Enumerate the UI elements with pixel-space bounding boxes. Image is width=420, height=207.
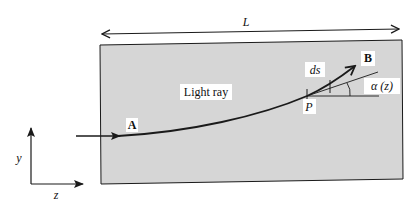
z-axis-label: z <box>53 188 59 202</box>
medium-box <box>100 40 403 184</box>
light-ray-diagram: L Light ray A B P ds α (z) y z <box>0 0 420 207</box>
segment-ds-label: ds <box>310 63 321 77</box>
angle-label: α (z) <box>371 79 393 93</box>
point-a-label: A <box>128 118 137 132</box>
length-dimension-arrow <box>102 29 399 34</box>
length-label: L <box>242 15 250 29</box>
point-p-label: P <box>304 100 313 114</box>
point-b-label: B <box>364 51 372 65</box>
y-axis-label: y <box>15 151 22 165</box>
ray-label: Light ray <box>184 85 228 99</box>
